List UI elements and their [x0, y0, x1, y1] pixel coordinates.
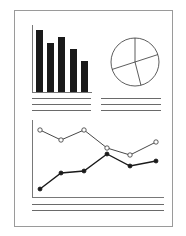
bar: [81, 61, 88, 92]
report-document-illustration: [0, 0, 186, 236]
bar: [36, 30, 43, 92]
filled-marker: [128, 164, 132, 168]
open-marker: [38, 128, 42, 132]
bar: [70, 49, 77, 92]
filled-marker: [38, 187, 42, 191]
open-marker: [154, 140, 158, 144]
open-marker: [128, 153, 132, 157]
filled-marker: [154, 159, 158, 163]
filled-marker: [82, 169, 86, 173]
bar: [58, 37, 65, 92]
open-marker: [59, 138, 63, 142]
open-marker: [82, 128, 86, 132]
bar: [47, 43, 54, 92]
filled-marker: [59, 171, 63, 175]
open-marker: [105, 146, 109, 150]
filled-marker: [105, 152, 109, 156]
